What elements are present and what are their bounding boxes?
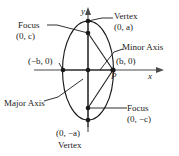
focus-bottom-coordinate: (0, −c) (127, 114, 151, 124)
x-axis-label: x (148, 71, 152, 81)
focus-top-coordinate: (0, c) (16, 31, 35, 41)
leader-focus-top (47, 25, 88, 33)
covertex-left-coordinate: (−b, 0) (28, 56, 53, 66)
leader-vertex-top (88, 18, 113, 21)
focus-top-label: Focus (18, 20, 40, 30)
point-vertex-bottom (86, 118, 91, 123)
vertex-bottom-coordinate: (0, −a) (56, 128, 80, 138)
vertex-top-coordinate: (0, a) (114, 22, 133, 32)
point-p-label: P (111, 71, 117, 81)
point-vertex-top (86, 19, 91, 24)
vertex-top-label: Vertex (114, 11, 138, 21)
minor-axis-label: Minor Axis (122, 42, 163, 52)
point-center (86, 68, 91, 73)
y-axis-label: y (81, 6, 85, 16)
x-axis-arrowhead (156, 67, 164, 73)
vertex-bottom-label: Vertex (58, 140, 82, 150)
point-covertex-left (61, 68, 66, 73)
major-axis-label: Major Axis (4, 98, 45, 108)
covertex-right-coordinate: (b, 0) (116, 56, 136, 66)
focal-radius-lower (88, 70, 113, 108)
focus-bottom-label: Focus (127, 103, 149, 113)
focal-radius-upper (88, 33, 113, 70)
point-focus-top (86, 31, 91, 36)
y-axis-arrowhead (85, 7, 91, 15)
point-focus-bottom (86, 106, 91, 111)
ellipse-figure: Focus (0, c) Vertex (0, a) Minor Axis (−… (0, 0, 179, 156)
